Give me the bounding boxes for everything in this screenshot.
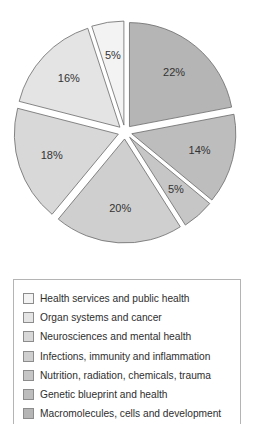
legend-item: Neurosciences and mental health: [14, 327, 240, 346]
legend-label: Nutrition, radiation, chemicals, trauma: [40, 370, 211, 381]
slice-label: 5%: [168, 183, 184, 195]
legend-label: Neurosciences and mental health: [40, 331, 191, 342]
legend-label: Health services and public health: [40, 293, 190, 304]
slice-label: 18%: [41, 149, 63, 161]
legend-item: Nutrition, radiation, chemicals, trauma: [14, 366, 240, 385]
legend-swatch: [23, 370, 34, 381]
legend-swatch: [23, 389, 34, 400]
legend-swatch: [23, 331, 34, 342]
slice-label: 5%: [105, 49, 121, 61]
legend-item: Genetic blueprint and health: [14, 385, 240, 404]
legend-swatch: [23, 293, 34, 304]
legend-item: Macromolecules, cells and development: [14, 404, 240, 423]
legend-swatch: [23, 312, 34, 323]
legend-label: Genetic blueprint and health: [40, 389, 167, 400]
slice-label: 14%: [189, 144, 211, 156]
legend-swatch: [23, 408, 34, 419]
slice-label: 16%: [58, 72, 80, 84]
pie-chart: 22%14%5%20%18%16%5%: [0, 0, 257, 270]
legend-label: Macromolecules, cells and development: [40, 408, 221, 419]
legend-label: Infections, immunity and inflammation: [40, 351, 210, 362]
legend-label: Organ systems and cancer: [40, 312, 162, 323]
slice-label: 20%: [109, 202, 131, 214]
legend-swatch: [23, 351, 34, 362]
legend: Health services and public health Organ …: [13, 279, 241, 424]
legend-item: Infections, immunity and inflammation: [14, 347, 240, 366]
slice-label: 22%: [163, 66, 185, 78]
legend-item: Health services and public health: [14, 289, 240, 308]
legend-item: Organ systems and cancer: [14, 308, 240, 327]
